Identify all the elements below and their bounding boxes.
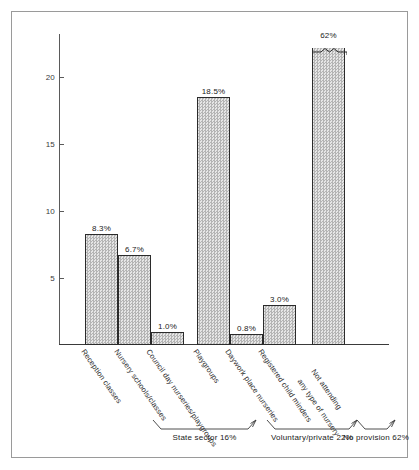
- bar-value-5: 3.0%: [270, 295, 289, 304]
- group-bracket-voluntary-private: Voluntary/private 22%: [266, 419, 358, 432]
- bracket-arrow-icon: [356, 419, 396, 432]
- bar-nursery-schools-classes[interactable]: 6.7%: [118, 255, 151, 345]
- bar-value-1: 6.7%: [125, 245, 144, 254]
- group-label-no-provision: No provision 62%: [343, 433, 409, 442]
- y-tick-5: 5: [59, 278, 64, 279]
- bar-value-4: 0.8%: [237, 324, 256, 333]
- chart-frame: 5 10 15 20 8.3% 6.7% 1.0% 18.5%: [11, 11, 408, 458]
- plot-area: 5 10 15 20 8.3% 6.7% 1.0% 18.5%: [59, 34, 389, 345]
- group-bracket-no-provision: No provision 62%: [356, 419, 396, 432]
- bar-council-day-nurseries[interactable]: 1.0%: [151, 332, 184, 345]
- y-tick-label-15: 15: [46, 140, 55, 149]
- bracket-arrow-icon: [152, 419, 257, 432]
- bar-value-6: 62%: [320, 31, 337, 40]
- y-axis-line: [59, 34, 60, 345]
- bar-daywork-place-nurseries[interactable]: 0.8%: [230, 334, 263, 345]
- bar-playgroups[interactable]: 18.5%: [197, 97, 230, 345]
- group-label-state-sector: State sector 16%: [172, 433, 236, 442]
- bar-value-2: 1.0%: [158, 322, 177, 331]
- bracket-arrow-icon: [266, 419, 358, 432]
- y-tick-15: 15: [59, 144, 64, 145]
- bar-value-0: 8.3%: [92, 224, 111, 233]
- chart-page: 5 10 15 20 8.3% 6.7% 1.0% 18.5%: [0, 0, 419, 470]
- bar-not-attending-any-nursery[interactable]: 62%: [312, 48, 345, 345]
- bar-registered-child-minders[interactable]: 3.0%: [263, 305, 296, 345]
- x-label-playgroups: Playgroups: [191, 348, 221, 385]
- group-label-voluntary-private: Voluntary/private 22%: [271, 433, 353, 442]
- y-tick-20: 20: [59, 77, 64, 78]
- y-tick-10: 10: [59, 211, 64, 212]
- bar-reception-classes[interactable]: 8.3%: [85, 234, 118, 345]
- y-tick-label-10: 10: [46, 207, 55, 216]
- bar-value-3: 18.5%: [202, 87, 226, 96]
- group-bracket-state-sector: State sector 16%: [152, 419, 257, 432]
- y-tick-label-5: 5: [50, 273, 55, 282]
- y-tick-label-20: 20: [46, 73, 55, 82]
- axis-break-icon: [312, 41, 345, 48]
